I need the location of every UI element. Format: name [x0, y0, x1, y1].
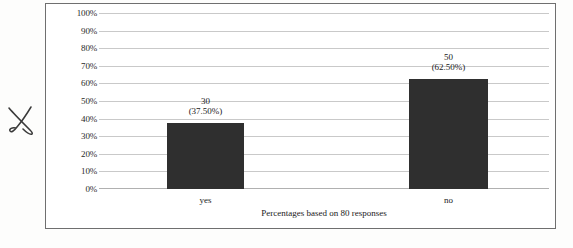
gridline-90: [99, 31, 549, 32]
bar-yes[interactable]: [167, 123, 244, 189]
y-tick-label-50: 50%: [51, 97, 97, 106]
bar-label-no: 50 (62.50%): [409, 52, 488, 72]
category-label-no: no: [409, 195, 488, 205]
y-tick-label-70: 70%: [51, 62, 97, 71]
category-label-yes: yes: [167, 195, 244, 205]
bar-count-yes: 30: [167, 96, 244, 106]
y-tick-label-0: 0%: [51, 185, 97, 194]
y-tick-label-30: 30%: [51, 132, 97, 141]
handwritten-check-mark-icon: [6, 98, 40, 138]
bar-label-yes: 30 (37.50%): [167, 96, 244, 116]
bar-percent-yes: (37.50%): [167, 106, 244, 116]
chart-caption: Percentages based on 80 responses: [99, 208, 549, 219]
plot-area: 30 (37.50%) 50 (62.50%) yes no Percentag…: [99, 13, 549, 189]
y-tick-label-90: 90%: [51, 27, 97, 36]
chart-frame: 100% 90% 80% 70% 60% 50% 40% 30% 20% 10%…: [45, 3, 556, 229]
y-tick-label-20: 20%: [51, 150, 97, 159]
y-axis: 100% 90% 80% 70% 60% 50% 40% 30% 20% 10%…: [47, 13, 97, 189]
y-tick-label-10: 10%: [51, 167, 97, 176]
gridline-100: [99, 13, 549, 14]
bar-percent-no: (62.50%): [409, 62, 488, 72]
y-tick-label-40: 40%: [51, 115, 97, 124]
y-tick-label-80: 80%: [51, 44, 97, 53]
bar-no[interactable]: [409, 79, 488, 189]
y-tick-label-60: 60%: [51, 79, 97, 88]
y-tick-label-100: 100%: [51, 9, 97, 18]
gridline-80: [99, 48, 549, 49]
bar-count-no: 50: [409, 52, 488, 62]
